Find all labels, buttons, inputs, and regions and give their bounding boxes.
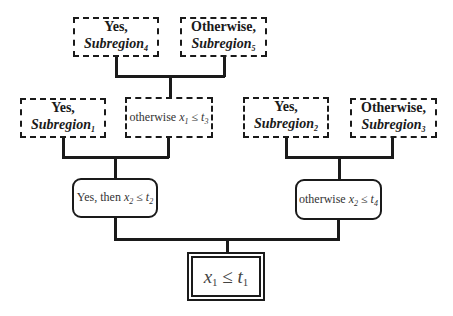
connector	[223, 56, 226, 77]
connector	[226, 238, 229, 253]
connector	[114, 156, 117, 179]
connector	[115, 56, 118, 77]
subregion-5-node: Otherwise, Subregion5	[180, 17, 267, 57]
connector	[62, 137, 65, 158]
subregion-4-node: Yes, Subregion4	[73, 17, 159, 57]
node-label: Subregion	[31, 117, 91, 132]
connector	[391, 137, 394, 158]
node-label: Subregion	[254, 116, 314, 131]
node-label: Otherwise,	[361, 99, 426, 116]
connector	[285, 137, 288, 158]
subregion-3-node: Otherwise, Subregion3	[350, 98, 437, 138]
root-node: x1 ≤ t1	[187, 252, 265, 301]
connector	[114, 217, 117, 240]
node-label: Yes,	[274, 98, 298, 115]
node-label: Yes,	[51, 99, 75, 116]
connector	[337, 219, 340, 240]
connector	[167, 137, 170, 158]
connector	[338, 156, 341, 180]
node-label: Subregion	[362, 117, 422, 132]
node-label: Yes,	[104, 18, 128, 35]
node-label: Otherwise,	[191, 18, 256, 35]
connector	[169, 75, 172, 98]
otherwise-x2-t4-node: otherwise x2 ≤ t4	[295, 179, 382, 220]
node-label: Subregion	[192, 36, 252, 51]
node-label: Subregion	[84, 36, 144, 51]
otherwise-x1-t3-node: otherwise x1 ≤ t3	[125, 97, 213, 138]
subregion-1-node: Yes, Subregion1	[20, 98, 106, 138]
subregion-2-node: Yes, Subregion2	[243, 97, 329, 138]
yes-x2-t2-node: Yes, then x2 ≤ t2	[72, 178, 158, 218]
